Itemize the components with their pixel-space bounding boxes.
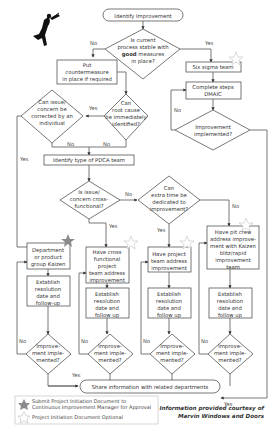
svg-text:improvement: improvement	[151, 265, 187, 272]
svg-text:resolution: resolution	[156, 298, 182, 304]
decision-implemented-4: Improve- ment imple- mented?	[208, 334, 253, 374]
svg-text:Establish: Establish	[95, 291, 119, 297]
svg-text:No: No	[81, 338, 88, 344]
start-terminal: Identify Improvement	[103, 9, 183, 21]
department-kaizen-box: Department or product group Kaizen	[27, 243, 70, 269]
svg-text:ment imple-: ment imple-	[214, 350, 246, 357]
cross-functional-team-box: Have cross functional project team addre…	[86, 247, 129, 284]
svg-text:address improve-: address improve-	[210, 236, 256, 243]
legend: Submit Project Initiation Document to Co…	[15, 396, 158, 424]
svg-text:team: team	[226, 264, 240, 270]
svg-text:team address: team address	[151, 258, 187, 264]
svg-text:Improve-: Improve-	[218, 343, 242, 350]
decision-improvement-implemented-sixsigma: Improvement implemented?	[175, 110, 250, 150]
share-terminal: Share information with related departmen…	[80, 380, 220, 393]
project-team-box: Have project team address improvement	[148, 247, 191, 272]
svg-text:Can: Can	[121, 100, 131, 106]
credit-line-1: Information provided courtesy of	[159, 405, 265, 412]
svg-text:individual: individual	[39, 120, 65, 126]
svg-text:Have project: Have project	[152, 251, 186, 258]
svg-text:Identify type of PDCA team: Identify type of PDCA team	[53, 157, 125, 164]
start-label: Identify Improvement	[114, 13, 171, 20]
svg-text:concern be: concern be	[37, 106, 66, 112]
svg-text:Yes: Yes	[88, 105, 98, 111]
svg-text:improvement: improvement	[89, 277, 125, 284]
svg-text:date and: date and	[218, 305, 242, 311]
svg-text:Have pit crew: Have pit crew	[215, 229, 252, 236]
svg-text:Yes: Yes	[108, 223, 118, 229]
svg-text:mented?: mented?	[218, 357, 241, 363]
svg-text:corrected by an: corrected by an	[31, 113, 73, 120]
svg-text:ment imple-: ment imple-	[156, 350, 188, 357]
svg-text:Yes: Yes	[71, 372, 81, 378]
svg-text:follow up: follow up	[218, 312, 243, 319]
svg-text:Improve-: Improve-	[36, 343, 60, 350]
decision-extra-time: Can extra time be dedicated to improveme…	[138, 176, 200, 224]
svg-text:Complete steps: Complete steps	[192, 84, 234, 91]
svg-text:Improve-: Improve-	[160, 343, 184, 350]
svg-text:or product: or product	[34, 254, 61, 261]
decision-implemented-2: Improve- ment imple- mented?	[88, 334, 133, 374]
svg-text:Is current: Is current	[130, 37, 155, 43]
svg-text:countermeasure: countermeasure	[65, 69, 108, 75]
svg-text:Yes: Yes	[19, 156, 29, 162]
svg-text:Is issue/: Is issue/	[78, 189, 100, 195]
svg-text:extra time be: extra time be	[151, 192, 187, 198]
pdca-box: Identify type of PDCA team	[44, 155, 134, 165]
svg-text:group Kaizen: group Kaizen	[31, 261, 66, 268]
svg-text:ment with Kaizen: ment with Kaizen	[210, 243, 256, 249]
svg-text:process stable with: process stable with	[117, 44, 168, 51]
svg-text:functional: functional	[94, 256, 120, 262]
svg-text:Improve-: Improve-	[98, 343, 122, 350]
svg-text:No: No	[103, 141, 110, 147]
svg-text:mented?: mented?	[160, 357, 183, 363]
svg-text:resolution: resolution	[94, 298, 120, 304]
svg-text:Department: Department	[32, 247, 64, 254]
svg-text:in place?: in place?	[131, 58, 155, 65]
svg-text:No: No	[174, 107, 181, 113]
svg-text:Have cross: Have cross	[92, 249, 121, 255]
svg-text:Yes: Yes	[204, 40, 214, 46]
svg-text:mented?: mented?	[98, 357, 121, 363]
svg-text:implemented?: implemented?	[194, 131, 232, 138]
svg-text:identified?: identified?	[112, 121, 140, 127]
decision-implemented-3: Improve- ment imple- mented?	[150, 334, 195, 374]
svg-text:team address: team address	[89, 270, 125, 276]
countermeasure-box: Put countermeasure in place if required	[57, 60, 117, 84]
dmaic-box: Complete steps DMAIC	[186, 82, 241, 99]
svg-text:follow up: follow up	[157, 312, 182, 319]
decision-root-cause: Can root cause be immediately identified…	[104, 94, 148, 140]
svg-text:concern cross-: concern cross-	[70, 196, 109, 202]
svg-text:resolution: resolution	[217, 298, 243, 304]
svg-text:good measures: good measures	[122, 51, 165, 58]
svg-text:Establish: Establish	[36, 279, 60, 285]
svg-text:ment imple-: ment imple-	[94, 350, 126, 357]
svg-text:No: No	[125, 191, 132, 197]
svg-text:date and: date and	[36, 293, 60, 299]
svg-text:mented?: mented?	[36, 357, 59, 363]
svg-text:root cause: root cause	[112, 107, 140, 113]
svg-text:Improvement: Improvement	[195, 124, 231, 131]
svg-text:Establish: Establish	[218, 291, 242, 297]
decision-cross-functional: Is issue/ concern cross- functional?	[60, 181, 120, 219]
decision-individual: Can issue/ concern be corrected by an in…	[21, 90, 83, 143]
svg-text:No: No	[67, 141, 74, 147]
establish-box-3: Establish resolution date and follow up	[148, 288, 191, 319]
establish-box-1: Establish resolution date and follow-up	[27, 276, 70, 307]
svg-text:Share information with related: Share information with related departmen…	[92, 384, 209, 391]
establish-box-4: Establish resolution date and follow up	[209, 288, 252, 319]
svg-text:No: No	[19, 338, 26, 344]
svg-text:be immediately: be immediately	[105, 114, 146, 121]
svg-text:Yes: Yes	[156, 227, 166, 233]
svg-text:No: No	[90, 40, 97, 46]
svg-text:functional?: functional?	[74, 203, 103, 209]
svg-text:blitz/rapid: blitz/rapid	[220, 250, 247, 257]
improvement-flowchart: Identify Improvement Is current process …	[0, 0, 279, 427]
svg-text:Project Initiation Document Op: Project Initiation Document Optional	[32, 414, 123, 421]
svg-text:Establish: Establish	[157, 291, 181, 297]
svg-text:improvement?: improvement?	[150, 206, 189, 213]
svg-text:Can issue/: Can issue/	[38, 99, 66, 105]
decision-implemented-1: Improve- ment imple- mented?	[26, 334, 71, 374]
svg-text:Can: Can	[164, 185, 174, 191]
credit-line-2: Marvin Windows and Doors	[178, 413, 265, 419]
